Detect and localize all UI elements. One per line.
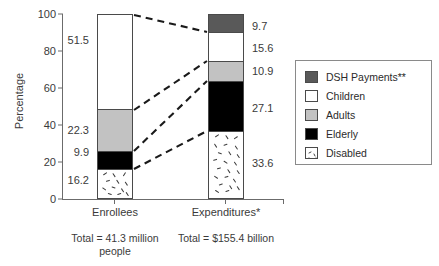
value-label-enrollees-disabled: 16.2 bbox=[37, 174, 89, 186]
legend-swatch-dsh-icon bbox=[305, 71, 318, 83]
value-label-enrollees-elderly: 9.9 bbox=[37, 146, 89, 158]
bar-segment-expenditures-disabled bbox=[208, 131, 244, 199]
bar-segment-enrollees-children bbox=[97, 14, 133, 109]
y-tick-mark-60 bbox=[58, 88, 63, 89]
bar-expenditures bbox=[208, 14, 244, 199]
legend-item-disabled[interactable]: Disabled bbox=[305, 143, 431, 162]
legend-swatch-elderly-icon bbox=[305, 128, 318, 140]
disabled-pattern-icon bbox=[209, 132, 243, 196]
total-enrollees-line2: people bbox=[35, 245, 195, 258]
y-tick-label-100: 100 bbox=[22, 8, 56, 20]
legend: DSH Payments** Children Adults Elderly bbox=[295, 60, 432, 165]
x-axis-label-expenditures: Expenditures* bbox=[192, 206, 261, 218]
bar-segment-enrollees-disabled bbox=[97, 169, 133, 199]
value-label-expenditures-children: 15.6 bbox=[252, 42, 302, 54]
disabled-pattern-icon bbox=[98, 170, 132, 198]
y-tick-mark-80 bbox=[58, 51, 63, 52]
bar-segment-expenditures-adults bbox=[208, 61, 244, 81]
x-tick-mark-2 bbox=[225, 199, 226, 204]
legend-swatch-adults-icon bbox=[305, 109, 318, 121]
value-label-expenditures-dsh: 9.7 bbox=[252, 20, 302, 32]
x-tick-mark-1 bbox=[114, 199, 115, 204]
x-tick-mark-end bbox=[283, 199, 284, 204]
legend-label-adults: Adults bbox=[326, 109, 355, 121]
value-label-enrollees-children: 51.5 bbox=[37, 34, 89, 46]
legend-swatch-disabled-icon bbox=[305, 147, 318, 159]
x-axis-line bbox=[62, 199, 284, 200]
legend-swatch-children-icon bbox=[305, 90, 318, 102]
total-expenditures-line1: Total = $155.4 billion bbox=[146, 232, 306, 245]
stacked-bar-chart: Percentage 100 80 60 40 20 0 bbox=[0, 0, 439, 266]
bar-enrollees bbox=[97, 14, 133, 199]
value-label-enrollees-adults: 22.3 bbox=[37, 124, 89, 136]
connector-elderly-top bbox=[134, 81, 207, 151]
y-tick-mark-20 bbox=[58, 162, 63, 163]
connector-disabled-top bbox=[134, 131, 207, 169]
legend-label-elderly: Elderly bbox=[326, 128, 358, 140]
legend-label-disabled: Disabled bbox=[326, 147, 367, 159]
legend-item-dsh[interactable]: DSH Payments** bbox=[305, 67, 431, 86]
y-tick-label-60: 60 bbox=[22, 82, 56, 94]
legend-item-adults[interactable]: Adults bbox=[305, 105, 431, 124]
bar-segment-enrollees-elderly bbox=[97, 151, 133, 169]
total-expenditures: Total = $155.4 billion bbox=[146, 232, 306, 245]
bar-segment-expenditures-elderly bbox=[208, 81, 244, 131]
y-tick-mark-100 bbox=[58, 14, 63, 15]
bar-segment-expenditures-children bbox=[208, 32, 244, 61]
bar-segment-enrollees-adults bbox=[97, 109, 133, 150]
bar-segment-expenditures-dsh bbox=[208, 14, 244, 32]
connector-adults-top bbox=[134, 61, 207, 110]
connector-children-top bbox=[134, 15, 207, 32]
legend-label-children: Children bbox=[326, 90, 365, 102]
y-axis-title: Percentage bbox=[13, 41, 25, 161]
y-tick-label-80: 80 bbox=[22, 45, 56, 57]
legend-item-children[interactable]: Children bbox=[305, 86, 431, 105]
legend-item-elderly[interactable]: Elderly bbox=[305, 124, 431, 143]
legend-label-dsh: DSH Payments** bbox=[326, 71, 406, 83]
y-tick-label-0: 0 bbox=[22, 193, 56, 205]
x-axis-label-enrollees: Enrollees bbox=[92, 206, 138, 218]
